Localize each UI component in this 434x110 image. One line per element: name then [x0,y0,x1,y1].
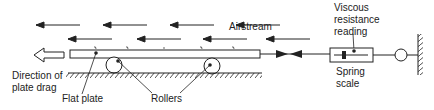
airstream-label: Airstream [229,21,272,33]
pivot-joint [395,49,407,61]
rollers-label: Rollers [151,93,182,105]
wall-hatch [418,34,423,75]
viscous-label-3: reading [334,26,367,38]
direction-label-2: plate drag [12,82,56,94]
flat-plate [70,50,260,58]
spring-label-1: Spring [336,66,365,78]
plate-drag-direction-arrow [34,48,64,62]
ground-hatch [66,73,262,78]
flat-plate-label: Flat plate [62,93,103,105]
spring-label-2: scale [336,78,359,90]
viscous-label-1: Viscous [334,2,369,14]
viscous-label-2: resistance [334,14,380,26]
direction-label-1: Direction of [12,70,63,82]
